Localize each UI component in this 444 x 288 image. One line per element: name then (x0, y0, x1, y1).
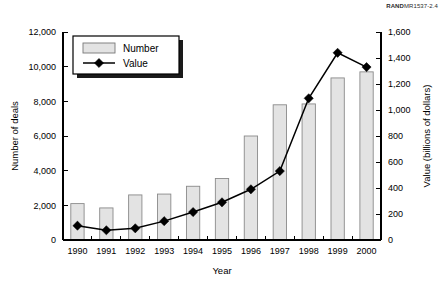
bar-1995 (215, 178, 228, 240)
legend-label-value: Value (123, 58, 148, 69)
right-tick-label-1000: 1,000 (388, 105, 411, 115)
right-tick-label-1200: 1,200 (388, 79, 411, 89)
value-marker-2000 (362, 63, 371, 72)
left-tick-label-10000: 10,000 (28, 62, 56, 72)
x-tick-label-1997: 1997 (270, 246, 290, 256)
x-tick-label-1996: 1996 (241, 246, 261, 256)
figure-container: RANDMR1537-2.4 02,0004,0006,0008,00010,0… (0, 0, 444, 288)
value-marker-1998 (304, 94, 313, 103)
x-tick-label-1998: 1998 (299, 246, 319, 256)
y2-axis-title: Value (billions of dollars) (421, 85, 432, 188)
x-tick-label-1991: 1991 (96, 246, 116, 256)
bar-1998 (302, 104, 315, 240)
right-tick-label-400: 400 (388, 183, 403, 193)
right-tick-label-600: 600 (388, 157, 403, 167)
right-tick-label-800: 800 (388, 131, 403, 141)
right-tick-label-200: 200 (388, 209, 403, 219)
legend-label-number: Number (123, 43, 159, 54)
x-tick-label-1994: 1994 (183, 246, 203, 256)
x-tick-label-1992: 1992 (125, 246, 145, 256)
chart-plot: 02,0004,0006,0008,00010,00012,0000200400… (0, 0, 444, 288)
bar-1999 (331, 78, 344, 240)
value-marker-1999 (333, 48, 342, 57)
x-tick-label-1993: 1993 (154, 246, 174, 256)
left-tick-label-12000: 12,000 (28, 27, 56, 37)
bars-group (71, 72, 373, 240)
x-tick-label-2000: 2000 (357, 246, 377, 256)
legend-swatch-number (83, 43, 115, 53)
chart-legend: NumberValue (73, 36, 183, 78)
left-tick-label-2000: 2,000 (33, 201, 56, 211)
left-tick-label-8000: 8,000 (33, 97, 56, 107)
left-tick-label-6000: 6,000 (33, 131, 56, 141)
left-tick-label-0: 0 (51, 235, 56, 245)
right-tick-label-1600: 1,600 (388, 27, 411, 37)
x-axis-title: Year (212, 265, 231, 276)
y-axis-title: Number of deals (9, 101, 20, 171)
left-tick-label-4000: 4,000 (33, 166, 56, 176)
x-tick-label-1995: 1995 (212, 246, 232, 256)
x-tick-label-1990: 1990 (67, 246, 87, 256)
bar-2000 (360, 72, 373, 240)
right-tick-label-1400: 1,400 (388, 53, 411, 63)
right-tick-label-0: 0 (388, 235, 393, 245)
x-tick-label-1999: 1999 (328, 246, 348, 256)
